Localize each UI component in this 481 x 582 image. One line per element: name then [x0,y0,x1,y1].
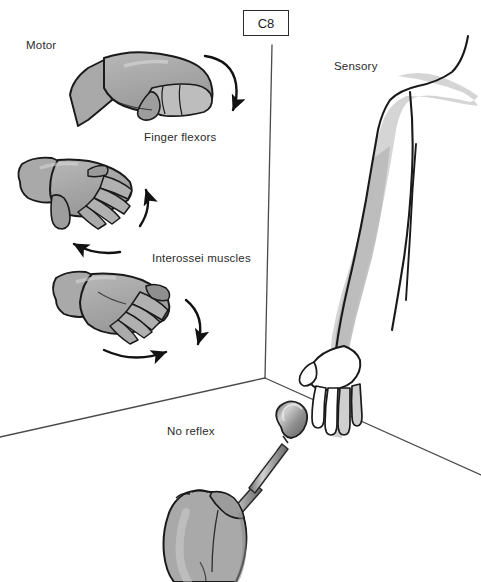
motor-panel-label: Motor [26,39,56,51]
adducted-fingers-hand-icon [53,272,170,344]
fist-hand-icon [70,52,213,126]
sensory-panel-label: Sensory [334,60,378,72]
finger-flexors-label: Finger flexors [144,131,216,143]
arm-dermatome-icon [300,36,479,438]
figure-canvas [0,0,481,582]
nerve-root-label: C8 [243,10,289,36]
spread-fingers-hand-icon [18,158,132,229]
lower-left-divider [0,378,265,437]
interossei-muscles-label: Interossei muscles [152,252,251,264]
no-reflex-label: No reflex [167,425,215,437]
c8-examination-figure: C8 Motor Sensory Finger flexors Inteross… [0,0,481,582]
vertical-divider [265,45,272,378]
